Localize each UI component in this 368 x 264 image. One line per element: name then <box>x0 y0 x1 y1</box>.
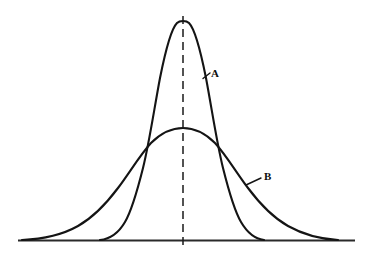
curve-a-path <box>100 21 264 240</box>
curve-a-label: A <box>211 68 219 79</box>
curve-b-leader-line <box>246 178 261 185</box>
distribution-chart <box>0 0 368 264</box>
figure-container: A B <box>0 0 368 264</box>
curve-b-label: B <box>264 171 272 182</box>
curve-b-path <box>22 128 338 240</box>
